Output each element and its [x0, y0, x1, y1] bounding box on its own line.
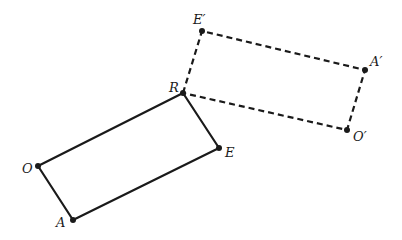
vertex-point-a: [70, 217, 76, 223]
vertex-label-o: O: [22, 161, 33, 176]
vertex-point-o: [35, 163, 41, 169]
vertex-point-e: [216, 145, 222, 151]
original-rectangle-roae: [38, 93, 219, 220]
vertex-label-r: R: [168, 80, 179, 95]
vertex-label-e-prime: E′: [192, 12, 205, 27]
vertex-label-a: A: [55, 215, 65, 230]
geometry-diagram: REAOE′A′O′: [0, 0, 402, 240]
vertex-label-e: E: [224, 145, 235, 160]
vertex-label-o-prime: O′: [353, 129, 367, 144]
vertex-point-e-prime: [199, 28, 205, 34]
vertex-point-o-prime: [344, 127, 350, 133]
rotated-image-rectangle-re'a'o': [183, 31, 365, 130]
vertex-points: [35, 28, 368, 223]
vertex-point-r: [180, 90, 186, 96]
vertex-label-a-prime: A′: [369, 54, 382, 69]
vertex-point-a-prime: [362, 67, 368, 73]
